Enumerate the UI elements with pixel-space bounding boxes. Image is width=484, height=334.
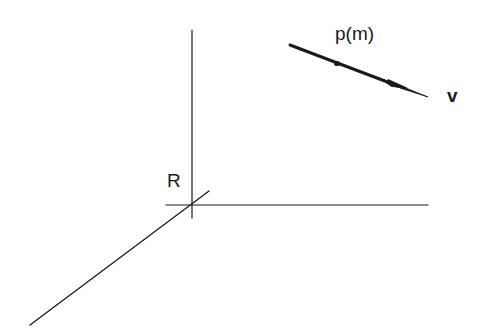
direction-label-v: v — [447, 86, 458, 105]
diagram-canvas: p(m) v R — [0, 0, 484, 334]
point-marker-icon — [334, 61, 340, 66]
diagram-svg — [0, 0, 484, 334]
arrowhead-body — [386, 79, 408, 88]
line-segment — [290, 45, 398, 86]
point-label-p-of-m: p(m) — [335, 24, 374, 43]
frame-label-r: R — [167, 171, 181, 190]
depth-axis — [30, 191, 209, 325]
line-p-of-m — [290, 45, 428, 97]
